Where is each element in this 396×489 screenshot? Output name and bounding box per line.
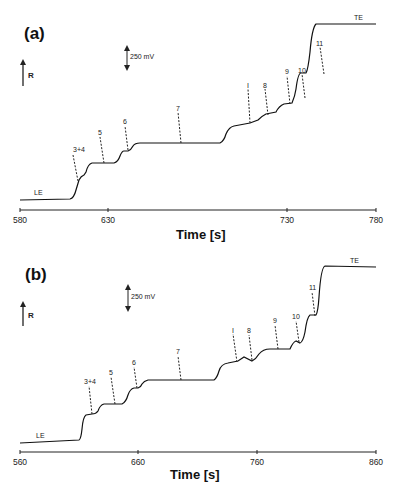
x-axis-title-a: Time [s]: [176, 227, 226, 242]
zone-label-5: 5: [109, 369, 113, 376]
zone-label-9: 9: [285, 68, 289, 75]
x-tick-b-1: 660: [131, 457, 145, 467]
panel-a-plot: [0, 0, 396, 245]
zone-label-6: 6: [123, 118, 127, 125]
zone-label-8: 8: [247, 327, 251, 334]
r-axis-label-b: R: [28, 311, 34, 320]
zone-label-le: LE: [34, 189, 43, 196]
panel-b-plot: [0, 245, 396, 489]
zone-label-11: 11: [316, 40, 323, 47]
x-tick-a-1: 630: [101, 215, 115, 225]
r-axis-label-a: R: [28, 71, 34, 80]
zone-label-7: 7: [176, 348, 180, 355]
zone-label-te: TE: [354, 14, 363, 21]
trace-b: [20, 266, 376, 443]
zone-label-10: 10: [298, 67, 306, 74]
x-tick-a-3: 780: [369, 215, 383, 225]
zone-label-te: TE: [350, 257, 359, 264]
zone-label-le: LE: [36, 432, 45, 439]
zone-label-i: I: [232, 327, 234, 334]
x-tick-b-0: 560: [13, 457, 27, 467]
zone-label-6: 6: [132, 359, 136, 366]
zone-label-10: 10: [292, 313, 300, 320]
scale-bar-label-a: 250 mV: [130, 53, 154, 60]
zone-label-3-4: 3+4: [84, 378, 96, 385]
trace-a: [20, 24, 376, 200]
x-axis-title-b: Time [s]: [170, 467, 220, 482]
zone-label-5: 5: [98, 129, 102, 136]
x-tick-a-2: 730: [280, 215, 294, 225]
x-tick-b-3: 860: [369, 457, 383, 467]
zone-label-3-4: 3+4: [73, 146, 85, 153]
x-tick-b-2: 760: [250, 457, 264, 467]
panel-b: (b) R 250 mV LE 3+4 5 6 7 I 8 9 10 11 TE…: [0, 245, 396, 489]
panel-tag-a: (a): [24, 24, 45, 44]
panel-a: (a) R 250 mV LE 3+4 5 6 7 I 8 9 10 11 TE…: [0, 0, 396, 245]
zone-label-7: 7: [176, 105, 180, 112]
panel-tag-b: (b): [25, 265, 47, 285]
x-tick-a-0: 580: [13, 215, 27, 225]
scale-bar-label-b: 250 mV: [131, 293, 155, 300]
zone-label-11: 11: [309, 284, 316, 291]
zone-label-9: 9: [273, 317, 277, 324]
zone-label-8: 8: [263, 82, 267, 89]
zone-label-i: I: [247, 82, 249, 89]
